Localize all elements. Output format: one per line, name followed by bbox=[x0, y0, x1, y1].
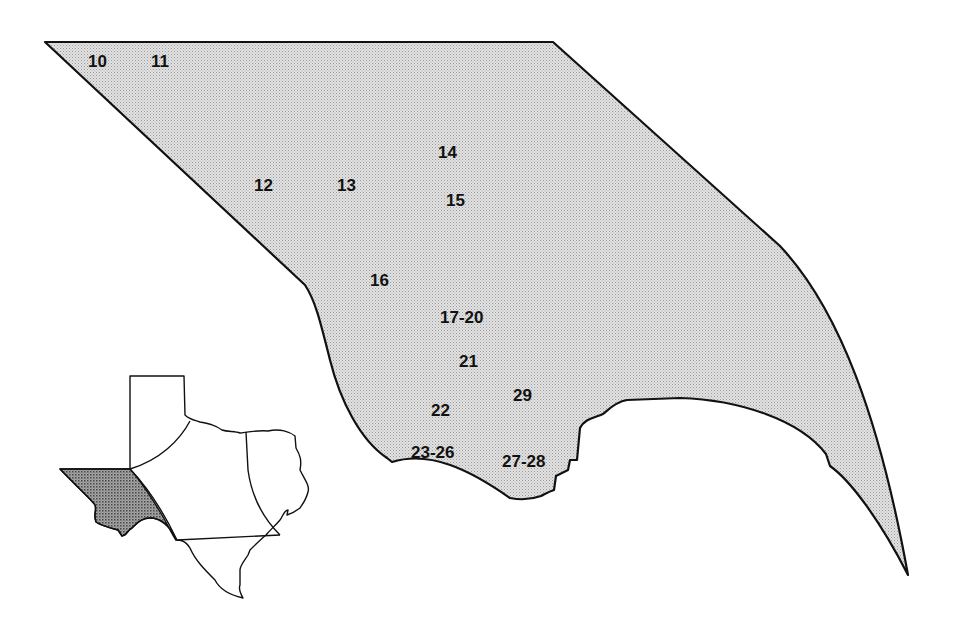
site-label: 11 bbox=[151, 53, 169, 70]
site-label: 13 bbox=[337, 177, 356, 194]
site-label: 17-20 bbox=[440, 309, 483, 326]
site-label: 10 bbox=[88, 53, 107, 70]
site-label: 16 bbox=[370, 272, 389, 289]
site-label: 27-28 bbox=[502, 453, 545, 470]
site-label: 14 bbox=[438, 144, 457, 161]
texas-inset bbox=[60, 376, 308, 598]
site-label: 23-26 bbox=[411, 444, 454, 461]
site-label: 22 bbox=[431, 402, 450, 419]
site-label: 15 bbox=[446, 192, 465, 209]
site-label: 29 bbox=[513, 387, 532, 404]
site-label: 12 bbox=[254, 177, 273, 194]
site-label: 21 bbox=[459, 353, 478, 370]
